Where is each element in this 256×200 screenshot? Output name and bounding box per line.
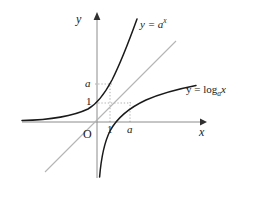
y-tick-label-1: 1 bbox=[86, 96, 92, 107]
x-axis-label: x bbox=[199, 126, 204, 138]
y-tick-label-a: a bbox=[85, 78, 91, 89]
identity-line-y-equals-x bbox=[45, 41, 176, 172]
origin-label: O bbox=[83, 128, 92, 140]
exponential-curve-label: y = ax bbox=[140, 17, 167, 30]
logarithmic-curve-label: y = logax bbox=[186, 84, 226, 98]
x-tick-label-a: a bbox=[127, 124, 133, 135]
exponential-curve bbox=[22, 19, 137, 121]
x-tick-label-1: 1 bbox=[107, 124, 113, 135]
logarithmic-curve bbox=[100, 86, 196, 178]
y-axis-label: y bbox=[76, 13, 81, 25]
y-axis-arrowhead bbox=[94, 12, 101, 20]
coordinate-axes bbox=[22, 18, 200, 178]
graph-drawing bbox=[0, 0, 256, 200]
math-figure-canvas: y x O a 1 1 a y = ax y = logax bbox=[0, 0, 256, 200]
log-label-prefix: y = log bbox=[186, 83, 217, 95]
log-label-argument: x bbox=[221, 83, 226, 95]
exponential-label-prefix: y = bbox=[140, 18, 158, 30]
exponential-label-exponent: x bbox=[163, 16, 166, 25]
